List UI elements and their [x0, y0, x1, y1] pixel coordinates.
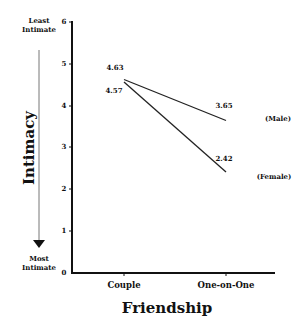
x-category-couple: Couple	[107, 280, 141, 290]
x-axis-title: Friendship	[122, 299, 212, 317]
y-tick-2: 2	[62, 184, 67, 193]
intimacy-chart: Least Intimate Most Intimate Intimacy 6 …	[0, 0, 308, 324]
male-series-line	[124, 80, 226, 121]
male-value-one-on-one: 3.65	[215, 101, 232, 110]
y-tick-6: 6	[62, 17, 67, 26]
x-category-one-on-one: One-on-One	[198, 280, 255, 290]
y-tick-1: 1	[62, 226, 67, 235]
female-value-one-on-one: 2.42	[215, 154, 232, 163]
most-label-line1: Most	[29, 254, 49, 263]
y-tick-5: 5	[62, 59, 67, 68]
legend-female: (Female)	[257, 172, 292, 181]
least-label-line1: Least	[28, 16, 50, 25]
female-series-line	[124, 82, 226, 172]
y-axis-title: Intimacy	[20, 110, 38, 185]
y-tick-0: 0	[62, 268, 67, 277]
y-tick-4: 4	[62, 101, 67, 110]
most-label-line2: Intimate	[22, 263, 56, 272]
least-label-line2: Intimate	[22, 25, 56, 34]
male-value-couple: 4.63	[106, 63, 123, 72]
arrow-down-icon	[33, 240, 45, 248]
y-tick-3: 3	[62, 142, 67, 151]
female-value-couple: 4.57	[105, 86, 122, 95]
legend-male: (Male)	[265, 114, 291, 123]
